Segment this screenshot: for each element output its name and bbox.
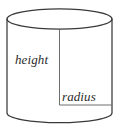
cylinder-figure: height radius [0, 0, 119, 127]
radius-label: radius [62, 90, 96, 103]
height-label: height [15, 53, 48, 66]
